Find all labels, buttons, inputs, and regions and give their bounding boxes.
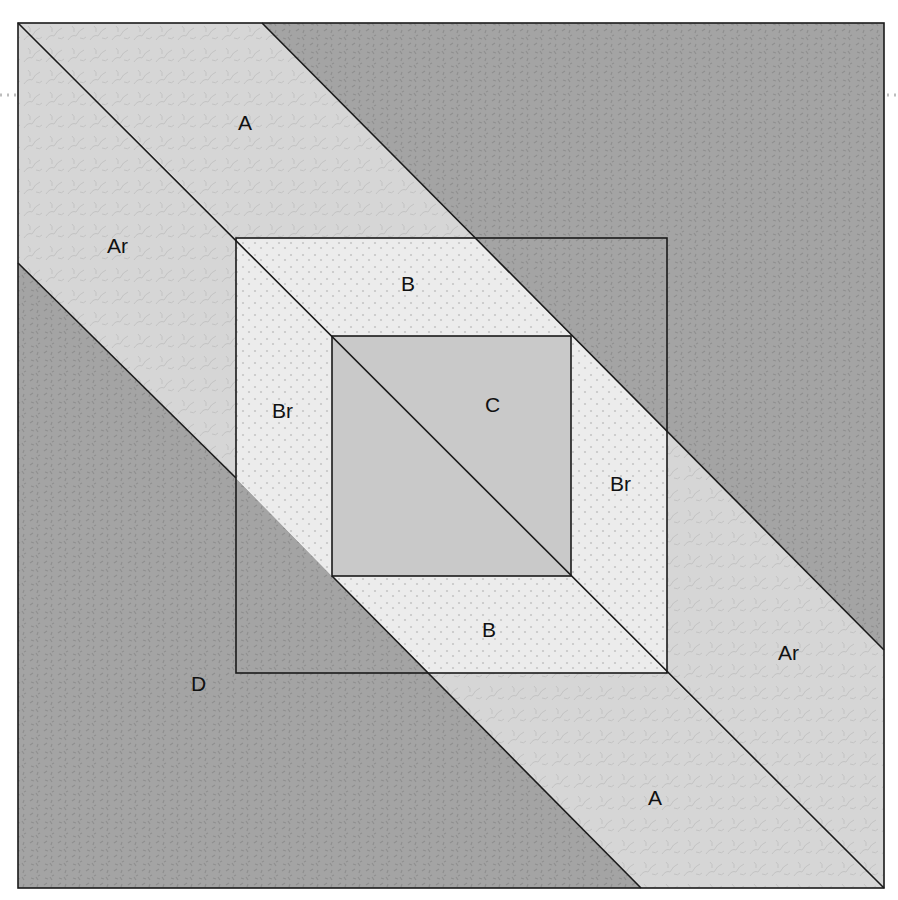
label-br-left: Br xyxy=(272,399,293,422)
label-d-bottom-left: D xyxy=(191,672,206,695)
label-b-top: B xyxy=(401,272,415,295)
label-ar-left: Ar xyxy=(107,234,128,257)
label-ar-right: Ar xyxy=(778,641,799,664)
label-c-center: C xyxy=(485,393,500,416)
label-b-bottom: B xyxy=(482,618,496,641)
label-a-top: A xyxy=(238,111,252,134)
quilt-block-diagram: A Ar B Br C Br B Ar D A xyxy=(0,0,898,900)
label-a-bottom: A xyxy=(648,786,662,809)
label-br-right: Br xyxy=(610,472,631,495)
